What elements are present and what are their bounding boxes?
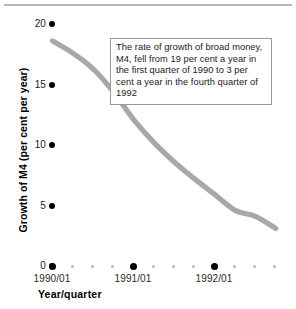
y-tick-marker-10 bbox=[49, 142, 55, 148]
y-tick-label-20: 20 bbox=[20, 19, 46, 29]
x-tick-marker-1990q1 bbox=[49, 263, 56, 270]
x-tick-marker-1992q4 bbox=[273, 265, 276, 268]
x-tick-marker-1991q1 bbox=[130, 263, 137, 270]
x-tick-label-1991: 1991/01 bbox=[101, 273, 165, 284]
chart-figure: 20 15 10 5 0 1990/01 1991/01 1992/01 Gro… bbox=[0, 0, 296, 309]
x-tick-marker-1991q4 bbox=[192, 265, 195, 268]
y-tick-marker-5 bbox=[49, 203, 55, 209]
y-tick-marker-20 bbox=[49, 21, 55, 27]
x-tick-marker-1991q2 bbox=[152, 265, 155, 268]
x-tick-marker-1992q3 bbox=[253, 265, 256, 268]
x-tick-marker-1992q1 bbox=[211, 263, 218, 270]
x-axis-title: Year/quarter bbox=[38, 288, 102, 300]
y-tick-label-0: 0 bbox=[20, 261, 46, 271]
y-tick-marker-15 bbox=[49, 82, 55, 88]
x-tick-label-1990: 1990/01 bbox=[20, 273, 84, 284]
x-tick-marker-1990q2 bbox=[71, 265, 74, 268]
annotation-callout-box: The rate of growth of broad money, M4, f… bbox=[110, 38, 272, 105]
annotation-callout-text: The rate of growth of broad money, M4, f… bbox=[116, 42, 266, 100]
x-tick-marker-1990q4 bbox=[111, 265, 114, 268]
x-tick-marker-1990q3 bbox=[91, 265, 94, 268]
y-axis-title: Growth of M4 (per cent per year) bbox=[17, 60, 29, 240]
x-tick-marker-1991q3 bbox=[172, 265, 175, 268]
x-tick-marker-1992q2 bbox=[233, 265, 236, 268]
x-tick-label-1992: 1992/01 bbox=[182, 273, 246, 284]
